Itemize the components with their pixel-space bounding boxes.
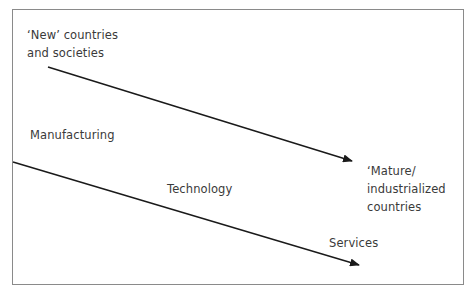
label-mature-1: ‘Mature/ — [367, 163, 416, 180]
label-new-countries-1: ‘New’ countries — [27, 27, 118, 44]
label-services: Services — [329, 235, 378, 252]
label-mature-2: industrialized — [367, 181, 446, 198]
label-mature-3: countries — [367, 199, 421, 216]
label-technology: Technology — [167, 181, 232, 198]
lower-arrow — [13, 162, 359, 265]
label-new-countries-2: and societies — [27, 45, 104, 62]
upper-arrow — [48, 67, 352, 161]
label-manufacturing: Manufacturing — [30, 127, 115, 144]
